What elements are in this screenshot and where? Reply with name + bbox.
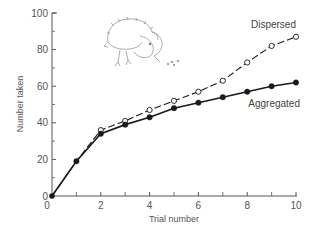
data-point-aggregated xyxy=(196,100,201,105)
y-tick-label: 100 xyxy=(31,8,48,19)
x-tick-label: 6 xyxy=(196,200,202,211)
y-tick-label: 60 xyxy=(37,81,49,92)
y-tick-label: 80 xyxy=(37,44,49,55)
data-point-dispersed xyxy=(269,43,274,48)
data-point-aggregated xyxy=(123,122,128,127)
data-point-aggregated xyxy=(293,80,298,85)
data-point-origin xyxy=(49,193,55,199)
data-point-dispersed xyxy=(245,60,250,65)
data-point-aggregated xyxy=(74,159,79,164)
data-point-dispersed xyxy=(196,89,201,94)
x-tick-label: 8 xyxy=(244,200,250,211)
x-tick-label: 0 xyxy=(44,200,50,211)
data-point-dispersed xyxy=(147,107,152,112)
data-point-dispersed xyxy=(293,34,298,39)
line-chart: 0204060801000246810 Number taken Trial n… xyxy=(0,0,321,237)
data-point-dispersed xyxy=(220,78,225,83)
data-point-dispersed xyxy=(171,98,176,103)
y-axis-title: Number taken xyxy=(15,76,25,133)
data-point-aggregated xyxy=(245,89,250,94)
series-line-dispersed xyxy=(52,37,296,196)
x-axis-title: Trial number xyxy=(149,214,199,224)
series-label-aggregated: Aggregated xyxy=(248,98,300,109)
data-point-aggregated xyxy=(269,84,274,89)
x-tick-label: 10 xyxy=(290,200,302,211)
bird-illustration-icon xyxy=(104,17,179,66)
series-group xyxy=(49,34,298,199)
series-label-dispersed: Dispersed xyxy=(251,19,296,30)
y-tick-label: 20 xyxy=(37,154,49,165)
data-point-aggregated xyxy=(98,131,103,136)
x-tick-label: 4 xyxy=(147,200,153,211)
x-tick-label: 2 xyxy=(98,200,104,211)
data-point-aggregated xyxy=(171,105,176,110)
data-point-aggregated xyxy=(147,115,152,120)
data-point-aggregated xyxy=(220,94,225,99)
y-tick-label: 40 xyxy=(37,117,49,128)
axes: 0204060801000246810 xyxy=(31,8,302,212)
